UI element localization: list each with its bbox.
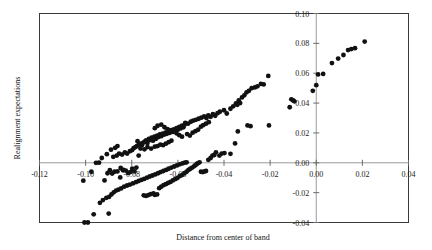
- data-point: [136, 153, 141, 158]
- data-point: [109, 147, 114, 152]
- y-tick-label: 0.04: [295, 99, 309, 108]
- data-point: [233, 141, 238, 146]
- data-point: [336, 56, 341, 61]
- data-point: [310, 88, 315, 93]
- y-tick-labels: 0.100.080.060.040.020.00-0.02-0.04: [293, 10, 310, 228]
- data-point: [81, 178, 86, 183]
- data-point: [316, 72, 321, 77]
- x-tick-labels: -0.12-0.10-0.08-0.06-0.04-0.020.000.020.…: [31, 170, 415, 179]
- data-point: [99, 156, 104, 161]
- data-point: [267, 123, 272, 128]
- x-tick-label: -0.12: [31, 170, 48, 179]
- data-point: [104, 152, 109, 157]
- data-point: [353, 46, 358, 51]
- axis-lines-layer: [40, 14, 409, 223]
- data-point: [235, 129, 240, 134]
- data-point: [204, 169, 209, 174]
- y-tick-label: 0.02: [295, 129, 309, 138]
- y-axis-title: Realignment expectations: [13, 77, 22, 160]
- data-point: [222, 151, 227, 156]
- data-point: [314, 83, 319, 88]
- data-point: [102, 178, 107, 183]
- data-point: [91, 212, 96, 217]
- data-point: [135, 139, 140, 144]
- x-tick-label: 0.00: [309, 170, 323, 179]
- data-point: [228, 151, 233, 156]
- data-point: [118, 175, 123, 180]
- x-axis-title: Distance from center of band: [176, 233, 269, 242]
- data-point: [248, 124, 253, 129]
- data-point: [86, 220, 91, 225]
- x-tick-label: 0.04: [402, 170, 416, 179]
- scatter-chart: -0.12-0.10-0.08-0.06-0.04-0.020.000.020.…: [0, 0, 432, 250]
- x-tick-label: 0.02: [355, 170, 369, 179]
- x-tick-label: -0.02: [262, 170, 279, 179]
- data-point: [106, 211, 111, 216]
- x-tick-label: -0.04: [216, 170, 233, 179]
- data-point: [341, 53, 346, 58]
- data-point: [261, 82, 266, 87]
- y-tick-label: 0.10: [295, 10, 309, 19]
- plot-border: [40, 14, 409, 223]
- y-tick-label: -0.04: [293, 219, 310, 228]
- data-point: [224, 111, 229, 116]
- data-point: [266, 74, 271, 79]
- y-tick-label: 0.00: [295, 159, 309, 168]
- data-point: [197, 160, 202, 165]
- data-point: [321, 72, 326, 77]
- tick-marks-layer: [40, 14, 409, 223]
- data-point: [184, 160, 189, 165]
- data-point: [330, 61, 335, 66]
- plot-canvas: -0.12-0.10-0.08-0.06-0.04-0.020.000.020.…: [0, 0, 432, 250]
- data-point: [238, 101, 243, 106]
- plot-frame: [40, 14, 409, 223]
- data-point: [362, 39, 367, 44]
- data-point: [217, 109, 222, 114]
- y-tick-label: 0.08: [295, 39, 309, 48]
- y-tick-label: -0.02: [293, 189, 310, 198]
- data-points-layer: [81, 39, 367, 225]
- data-point: [206, 120, 211, 125]
- x-tick-label: -0.06: [170, 170, 187, 179]
- x-tick-label: -0.08: [123, 170, 140, 179]
- data-point: [155, 192, 160, 197]
- data-point: [169, 138, 174, 143]
- data-point: [97, 160, 102, 165]
- y-tick-label: 0.06: [295, 69, 309, 78]
- data-point: [180, 134, 185, 139]
- data-point: [287, 105, 292, 110]
- data-point: [115, 144, 120, 149]
- x-tick-label: -0.10: [77, 170, 94, 179]
